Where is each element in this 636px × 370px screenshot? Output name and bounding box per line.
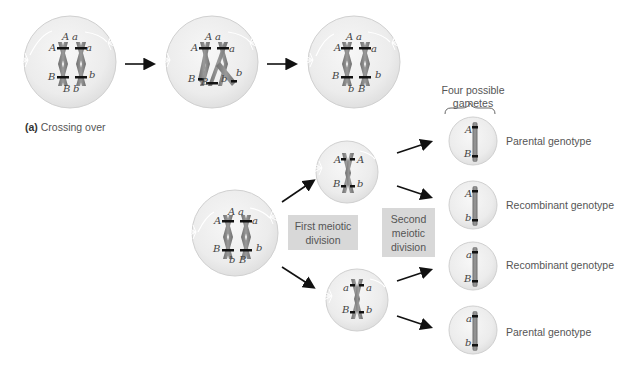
svg-text:A: A xyxy=(213,215,221,226)
svg-text:b: b xyxy=(236,67,242,78)
svg-text:B: B xyxy=(212,243,220,254)
gamete-2-genotype: Recombinant genotype xyxy=(506,199,614,211)
gamete-1: A B xyxy=(449,117,497,165)
second-division-line1: Second xyxy=(391,212,427,226)
svg-text:a: a xyxy=(356,31,362,42)
first-division-line2: division xyxy=(295,233,352,247)
diagram-canvas: A a A a B b B b xyxy=(0,0,636,370)
svg-text:a: a xyxy=(215,31,221,42)
cell-before-crossing-over: A a A a B b B b xyxy=(19,16,117,108)
svg-text:a: a xyxy=(72,31,78,42)
daughter-cell-bottom: a a B b xyxy=(323,269,388,331)
gamete-4: a b xyxy=(449,306,497,354)
svg-text:a: a xyxy=(371,43,377,54)
svg-text:B: B xyxy=(463,148,471,159)
caption-text: Crossing over xyxy=(41,121,106,133)
second-division-line3: division xyxy=(391,240,427,254)
meiosis-crossing-over-diagram: A a A a B b B b xyxy=(0,0,636,370)
svg-text:B: B xyxy=(238,254,246,265)
svg-text:b: b xyxy=(375,69,381,80)
svg-text:B: B xyxy=(187,73,195,84)
svg-text:b: b xyxy=(229,254,235,265)
arrow-to-gamete-2 xyxy=(397,186,430,197)
arrow-to-daughter-top xyxy=(282,181,313,202)
arrow-to-gamete-1 xyxy=(397,142,430,153)
svg-text:A: A xyxy=(204,31,212,42)
cell-after-crossing-over: A a A a B b b B xyxy=(304,16,401,108)
caption: (a) Crossing over xyxy=(25,121,106,133)
arrow-to-gamete-4 xyxy=(397,316,430,327)
svg-text:a: a xyxy=(86,42,92,53)
svg-text:B: B xyxy=(47,71,55,82)
svg-text:b: b xyxy=(465,212,471,223)
svg-text:B: B xyxy=(62,83,70,94)
gamete-1-genotype: Parental genotype xyxy=(506,135,591,147)
svg-text:B: B xyxy=(463,273,471,284)
svg-text:b: b xyxy=(256,242,262,253)
svg-text:A: A xyxy=(190,42,198,53)
svg-text:a: a xyxy=(238,206,244,217)
arrow-to-gamete-3 xyxy=(397,270,430,281)
svg-text:a: a xyxy=(366,282,372,293)
svg-text:A: A xyxy=(464,188,472,199)
gamete-3: a B xyxy=(449,242,497,290)
gametes-header-line2: gametes xyxy=(431,97,515,110)
svg-text:B: B xyxy=(357,83,365,94)
arrow-to-daughter-bottom xyxy=(282,267,313,287)
svg-text:A: A xyxy=(345,31,353,42)
first-division-line1: First meiotic xyxy=(295,219,352,233)
svg-text:A: A xyxy=(464,124,472,135)
second-division-line2: meiotic xyxy=(391,226,427,240)
svg-text:A: A xyxy=(333,154,341,165)
cell-during-crossing-over: A a A a B b B b xyxy=(161,16,259,108)
svg-text:B: B xyxy=(331,70,339,81)
svg-text:b: b xyxy=(348,83,354,94)
svg-text:A: A xyxy=(356,154,364,165)
daughter-cell-top: A A B b xyxy=(313,141,378,203)
svg-text:A: A xyxy=(227,206,235,217)
svg-text:a: a xyxy=(466,249,472,260)
svg-text:a: a xyxy=(466,313,472,324)
svg-text:A: A xyxy=(61,31,69,42)
svg-text:a: a xyxy=(343,282,349,293)
svg-text:B: B xyxy=(200,76,208,87)
parent-cell: A a A a B b b B xyxy=(187,190,279,276)
svg-text:B: B xyxy=(332,178,340,189)
svg-text:b: b xyxy=(357,178,363,189)
svg-text:A: A xyxy=(333,42,341,53)
gamete-2: A b xyxy=(449,181,497,229)
second-meiotic-division-label: Second meiotic division xyxy=(382,208,435,257)
svg-text:A: A xyxy=(48,42,56,53)
svg-text:a: a xyxy=(229,43,235,54)
gamete-4-genotype: Parental genotype xyxy=(506,326,591,338)
svg-text:b: b xyxy=(73,83,79,94)
svg-text:b: b xyxy=(366,304,372,315)
svg-text:b: b xyxy=(465,337,471,348)
svg-text:b: b xyxy=(221,73,227,84)
gametes-header-line1: Four possible xyxy=(431,84,515,97)
svg-text:b: b xyxy=(89,69,95,80)
gamete-3-genotype: Recombinant genotype xyxy=(506,259,614,271)
gametes-header: Four possible gametes xyxy=(431,84,515,110)
caption-letter: (a) xyxy=(25,121,38,133)
svg-text:a: a xyxy=(252,215,258,226)
svg-text:B: B xyxy=(341,304,349,315)
first-meiotic-division-label: First meiotic division xyxy=(288,215,358,250)
